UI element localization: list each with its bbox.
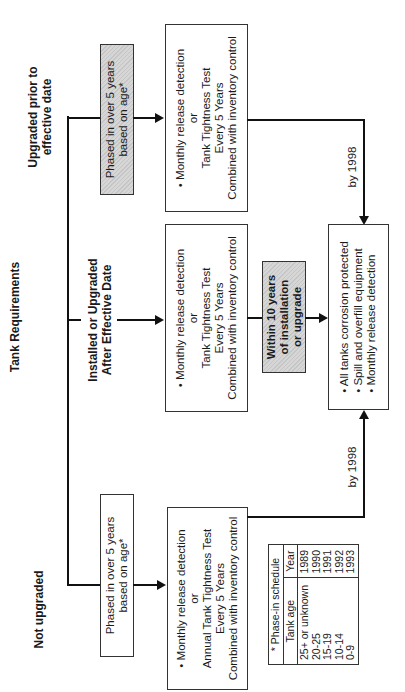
deadline-label-not-upgraded: by 1998: [346, 437, 359, 497]
box-text: or upgrade: [291, 287, 304, 347]
requirement-box-installed-after: • Monthly release detection or Tank Tigh…: [165, 224, 248, 412]
year-column: 1989 1990 1991 1992 1993: [298, 545, 359, 578]
box-text: Annual Tank Tightness Test: [201, 529, 214, 669]
phase-in-schedule-table: * Phase-in schedule Tank age Year 25+ or…: [268, 544, 359, 665]
box-text: Combined with inventory control: [226, 236, 239, 400]
table-cell: 25+ or unknown: [299, 582, 311, 660]
box-text: Phased in over 5 years: [104, 61, 117, 179]
box-text: Tank Tightness Test: [200, 268, 213, 369]
table-cell: 1989: [299, 549, 311, 573]
box-text: Phased in over 5 years: [104, 517, 117, 635]
final-requirements-box: • All tanks corrosion protected • Spill …: [328, 224, 389, 410]
requirement-box-not-upgraded: • Monthly release detection or Annual Ta…: [167, 507, 248, 690]
arrow-head-icon: [157, 580, 166, 590]
box-text: Every 5 Years: [214, 563, 227, 634]
phase-in-box-upgraded-prior: Phased in over 5 years based on age*: [100, 44, 134, 195]
phase-in-box-not-upgraded: Phased in over 5 years based on age*: [100, 494, 134, 657]
box-text: Combined with inventory control: [226, 36, 239, 200]
branch-label-installed-after: Installed or Upgraded After Effective Da…: [86, 245, 114, 395]
connector-line: [117, 319, 155, 321]
branch-label-line: effective date: [40, 57, 54, 177]
phase-in-schedule-title: * Phase-in schedule: [269, 545, 284, 665]
column-header-year: Year: [283, 545, 298, 578]
branch-label-line: After Effective Date: [100, 245, 114, 395]
box-text: Combined with inventory control: [227, 517, 240, 681]
box-text: or: [187, 113, 200, 123]
box-text: of installation: [278, 280, 291, 355]
branch-label-line: Upgraded prior to: [26, 57, 40, 177]
connector-line: [67, 584, 101, 586]
tank-age-column: 25+ or unknown 20-25 15-19 10-14 0-9: [298, 578, 359, 665]
box-text: • Monthly release detection: [174, 49, 187, 187]
arrow-head-icon: [155, 315, 164, 325]
final-requirement-item: • Spill and overfill equipment: [352, 241, 366, 393]
connector-line: [67, 117, 101, 119]
connector-line: [247, 317, 263, 319]
box-text: based on age*: [117, 538, 130, 612]
branch-label-not-upgraded: Not upgraded: [32, 562, 46, 657]
box-text: Tank Tightness Test: [200, 68, 213, 169]
column-header-tank-age: Tank age: [283, 578, 298, 665]
connector-line: [305, 317, 320, 319]
arrow-head-icon: [359, 410, 369, 419]
box-text: based on age*: [117, 82, 130, 156]
table-cell: 15-19: [322, 582, 334, 660]
box-text: Every 5 Years: [213, 283, 226, 354]
arrow-head-icon: [319, 313, 328, 323]
box-text: or: [187, 313, 200, 323]
connector-line: [247, 119, 365, 121]
branch-label-upgraded-prior: Upgraded prior to effective date: [26, 57, 54, 177]
box-text: • Monthly release detection: [174, 249, 187, 387]
connector-line: [133, 117, 155, 119]
connector-line: [363, 418, 365, 518]
deadline-box-installed-after: Within 10 years of installation or upgra…: [262, 261, 306, 373]
box-text: or: [188, 593, 201, 603]
deadline-label-upgraded-prior: by 1998: [346, 137, 359, 197]
main-branch-line: [67, 116, 69, 586]
table-cell: 1993: [345, 549, 357, 573]
final-requirement-item: • All tanks corrosion protected: [338, 241, 352, 393]
table-cell: 0-9: [345, 582, 357, 660]
diagram-title: Tank Requirements: [8, 242, 22, 392]
connector-line: [67, 319, 81, 321]
table-cell: 1991: [322, 549, 334, 573]
branch-label-line: Installed or Upgraded: [86, 245, 100, 395]
box-text: Every 5 Years: [213, 83, 226, 154]
requirement-box-upgraded-prior: • Monthly release detection or Tank Tigh…: [165, 24, 248, 212]
connector-line: [363, 119, 365, 216]
final-requirements-list: • All tanks corrosion protected • Spill …: [338, 241, 379, 393]
arrow-head-icon: [155, 113, 164, 123]
box-text: • Monthly release detection: [175, 529, 188, 667]
connector-line: [133, 584, 157, 586]
connector-line: [247, 516, 365, 518]
box-text: Within 10 years: [265, 275, 278, 359]
final-requirement-item: • Monthly release detection: [365, 241, 379, 393]
tank-requirements-diagram: Tank Requirements Upgraded prior to effe…: [0, 0, 405, 692]
